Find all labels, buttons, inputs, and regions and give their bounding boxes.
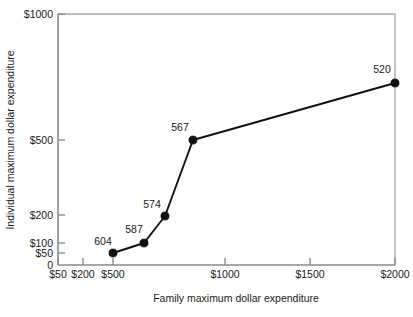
data-point-label: 574 (143, 198, 161, 210)
y-tick-label: $500 (30, 134, 54, 146)
x-tick-label: $1000 (210, 268, 239, 280)
y-tick-label: $50 (35, 247, 53, 259)
data-point-marker (391, 79, 399, 87)
data-point-labels: 604587574567520 (94, 63, 391, 247)
data-point-label: 587 (125, 223, 143, 235)
data-point-label: 520 (373, 63, 391, 75)
y-axis-title: Individual maximum dollar expenditure (4, 50, 16, 229)
data-point-marker (189, 136, 197, 144)
data-point-label: 604 (94, 235, 112, 247)
data-point-marker (109, 249, 117, 257)
data-point-marker (140, 239, 148, 247)
data-point-label: 567 (171, 121, 189, 133)
y-axis-tick-labels: $1000$500$200$100$500 (24, 8, 53, 271)
y-axis-ticks (58, 14, 65, 253)
x-axis-ticks (58, 258, 395, 265)
y-tick-label: $200 (30, 209, 54, 221)
y-tick-label: $1000 (24, 8, 53, 20)
x-axis-title: Family maximum dollar expenditure (153, 292, 319, 304)
x-tick-label: $200 (71, 268, 95, 280)
data-line-series (113, 83, 395, 253)
x-tick-label: $500 (101, 268, 125, 280)
line-chart: $1000$500$200$100$500 $50$200$500$1000$1… (0, 0, 413, 317)
x-tick-label: $50 (49, 268, 67, 280)
chart-container: $1000$500$200$100$500 $50$200$500$1000$1… (0, 0, 413, 317)
plot-frame (58, 14, 395, 265)
data-point-marker (161, 212, 169, 220)
data-points (109, 79, 399, 257)
x-tick-label: $2000 (380, 268, 409, 280)
x-tick-label: $1500 (295, 268, 324, 280)
x-axis-tick-labels: $50$200$500$1000$1500$2000 (49, 268, 410, 280)
